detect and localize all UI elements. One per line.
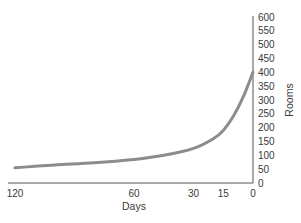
y-axis-label: Rooms (283, 83, 295, 116)
y-tick-label: 550 (258, 25, 275, 36)
booking-curve-chart: 050100150200250300350400450500550600 120… (0, 0, 301, 223)
y-tick-label: 300 (258, 95, 275, 106)
x-tick-label: 120 (7, 188, 24, 199)
y-tick-label: 100 (258, 150, 275, 161)
y-tick-label: 600 (258, 12, 275, 23)
y-tick-label: 450 (258, 53, 275, 64)
x-tick-label: 60 (128, 188, 140, 199)
y-tick-label: 250 (258, 108, 275, 119)
x-tick-labels: 1206030150 (7, 188, 257, 199)
x-tick-label: 15 (218, 188, 230, 199)
y-tick-label: 500 (258, 39, 275, 50)
y-tick-label: 150 (258, 136, 275, 147)
y-tick-label: 50 (258, 164, 270, 175)
y-tick-label: 200 (258, 122, 275, 133)
y-tick-label: 400 (258, 67, 275, 78)
y-tick-labels: 050100150200250300350400450500550600 (258, 12, 275, 189)
y-tick-label: 350 (258, 81, 275, 92)
x-tick-label: 0 (250, 188, 256, 199)
y-tick-label: 0 (258, 178, 264, 189)
x-tick-label: 30 (188, 188, 200, 199)
rooms-curve (15, 72, 253, 168)
x-axis-label: Days (122, 200, 146, 212)
